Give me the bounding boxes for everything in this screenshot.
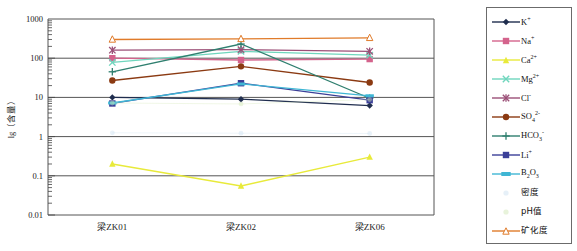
legend-marker-icon xyxy=(491,91,521,105)
legend-item-label: K+ xyxy=(521,16,531,26)
series-line xyxy=(112,157,369,186)
legend-item-label: Na+ xyxy=(521,35,534,45)
legend-item-Cl[interactable]: Cl- xyxy=(487,88,571,107)
legend-item-label: pH值 xyxy=(521,207,542,216)
data-point xyxy=(367,131,372,136)
legend-item-label: Li+ xyxy=(521,149,532,159)
legend-item-pH值[interactable]: pH值 xyxy=(487,202,571,221)
legend-item-label: B2O3 xyxy=(521,168,539,179)
data-point xyxy=(239,131,244,136)
data-point xyxy=(238,57,244,63)
chart-plot-area: 10001001010.10.01梁ZK01梁ZK02梁ZK06lg（含量） xyxy=(0,0,440,251)
data-point xyxy=(109,68,116,75)
legend-marker-icon xyxy=(491,186,521,200)
legend-item-K[interactable]: K+ xyxy=(487,12,571,31)
legend-marker-icon xyxy=(491,15,521,29)
legend-item-Mg[interactable]: Mg2+ xyxy=(487,69,571,88)
data-point xyxy=(238,63,244,69)
legend-item-label: 矿化度 xyxy=(521,226,548,235)
data-point xyxy=(109,77,115,83)
legend-marker-icon xyxy=(491,72,521,86)
chart-screenshot: 10001001010.10.01梁ZK01梁ZK02梁ZK06lg（含量） K… xyxy=(0,0,577,251)
data-point xyxy=(366,153,372,159)
legend-item-Ca[interactable]: Ca2+ xyxy=(487,50,571,69)
series-密度 xyxy=(110,130,372,135)
legend-marker-icon xyxy=(491,148,521,162)
y-axis-title: lg（含量） xyxy=(6,96,16,139)
legend-marker-icon xyxy=(491,205,521,219)
data-point xyxy=(365,94,373,97)
legend-marker-icon xyxy=(491,224,521,238)
legend-marker-icon xyxy=(491,129,521,143)
ytick-label: 1 xyxy=(39,132,43,142)
legend-item-HCO[interactable]: HCO3- xyxy=(487,126,571,145)
xtick-label-1: 梁ZK02 xyxy=(226,221,256,232)
legend-item-label: Mg2+ xyxy=(521,73,539,83)
ytick-label: 0.01 xyxy=(28,210,43,220)
data-point xyxy=(239,102,244,107)
legend-item-Na[interactable]: Na+ xyxy=(487,31,571,50)
legend-marker-icon xyxy=(491,110,521,124)
legend-item-label: HCO3- xyxy=(521,129,544,142)
legend-item-label: 密度 xyxy=(521,188,539,197)
series-矿化度 xyxy=(109,34,373,42)
ytick-label: 10 xyxy=(35,92,44,102)
data-point xyxy=(109,94,115,100)
legend-item-Li[interactable]: Li+ xyxy=(487,145,571,164)
chart-legend: K+Na+Ca2+Mg2+Cl-SO42-HCO3-Li+B2O3密度pH值矿化… xyxy=(486,7,572,244)
legend-item-label: Ca2+ xyxy=(521,54,537,64)
legend-item-SO[interactable]: SO42- xyxy=(487,107,571,126)
legend-item-矿化度[interactable]: 矿化度 xyxy=(487,221,571,240)
data-point xyxy=(367,97,372,102)
ytick-label: 0.1 xyxy=(32,171,43,181)
legend-item-label: Cl- xyxy=(521,92,531,102)
data-point xyxy=(366,79,372,85)
xtick-label-0: 梁ZK01 xyxy=(97,221,127,232)
ytick-label: 100 xyxy=(30,53,43,63)
legend-item-密度[interactable]: 密度 xyxy=(487,183,571,202)
legend-marker-icon xyxy=(491,34,521,48)
data-point xyxy=(237,82,245,85)
data-point xyxy=(109,160,115,166)
log-line-chart: 10001001010.10.01梁ZK01梁ZK02梁ZK06lg（含量） xyxy=(0,0,440,251)
legend-marker-icon xyxy=(491,167,521,181)
xtick-label-2: 梁ZK06 xyxy=(355,221,385,232)
legend-item-label: SO42- xyxy=(521,110,540,123)
data-point xyxy=(110,101,115,106)
ytick-label: 1000 xyxy=(26,14,43,24)
series-Ca2+ xyxy=(109,153,373,188)
series-K+ xyxy=(109,94,373,109)
legend-item-B[interactable]: B2O3 xyxy=(487,164,571,183)
data-point xyxy=(110,130,115,135)
legend-marker-icon xyxy=(491,53,521,67)
